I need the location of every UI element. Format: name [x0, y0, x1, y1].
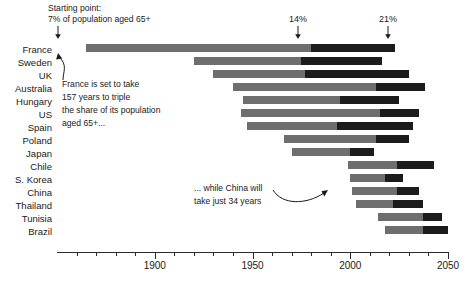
- category-label-japan: Japan: [0, 148, 52, 159]
- bar-segment-7-to-14: [378, 213, 423, 221]
- tick-1930: [213, 252, 214, 256]
- bar-segment-7-to-14: [385, 226, 422, 234]
- bar-segment-14-to-21: [380, 109, 419, 117]
- annotation-france-line3: the share of its population: [62, 105, 160, 117]
- bar-segment-7-to-14: [350, 174, 385, 182]
- year-label-2050: 2050: [437, 260, 459, 271]
- bar-segment-7-to-14: [348, 161, 397, 169]
- tick-1910: [174, 252, 175, 256]
- bar-segment-7-to-14: [352, 187, 397, 195]
- bar-segment-7-to-14: [292, 148, 351, 156]
- bar-segment-14-to-21: [376, 83, 425, 91]
- bar-s-korea: [350, 174, 403, 182]
- tick-1890: [135, 252, 136, 256]
- bar-segment-7-to-14: [213, 70, 305, 78]
- bar-segment-7-to-14: [194, 57, 302, 65]
- tick-1920: [194, 252, 195, 256]
- bar-france: [86, 44, 395, 52]
- bar-sweden: [194, 57, 382, 65]
- bar-segment-14-to-21: [423, 226, 448, 234]
- annotation-france-line2: 157 years to triple: [62, 92, 130, 104]
- category-label-spain: Spain: [0, 122, 52, 133]
- bar-hungary: [243, 96, 399, 104]
- category-label-skorea: S. Korea: [0, 174, 52, 185]
- tick-1970: [292, 252, 293, 256]
- bar-segment-14-to-21: [385, 174, 403, 182]
- annotation-france-line4: aged 65+...: [62, 118, 105, 130]
- down-arrow-icon-21pct: [383, 26, 393, 39]
- bar-chile: [348, 161, 434, 169]
- bar-segment-14-to-21: [397, 187, 419, 195]
- bar-segment-7-to-14: [241, 109, 380, 117]
- bar-brazil: [385, 226, 448, 234]
- bar-china: [352, 187, 418, 195]
- category-label-brazil: Brazil: [0, 226, 52, 237]
- tick-1990: [331, 252, 332, 256]
- tick-1880: [116, 252, 117, 256]
- category-label-australia: Australia: [0, 83, 52, 94]
- bar-segment-14-to-21: [305, 70, 409, 78]
- bar-segment-7-to-14: [284, 135, 376, 143]
- bar-us: [241, 109, 419, 117]
- bar-segment-14-to-21: [397, 161, 434, 169]
- bar-segment-14-to-21: [423, 213, 443, 221]
- tick-1870: [96, 252, 97, 256]
- annotation-china-line2: take just 34 years: [194, 196, 261, 208]
- bar-segment-7-to-14: [233, 83, 376, 91]
- category-label-sweden: Sweden: [0, 57, 52, 68]
- tick-2020: [389, 252, 390, 256]
- tick-2040: [428, 252, 429, 256]
- annotation-china-line1: ... while China will: [194, 183, 262, 195]
- marker-label-21pct: 21%: [379, 14, 397, 24]
- category-label-poland: Poland: [0, 135, 52, 146]
- tick-2000: [350, 252, 351, 259]
- down-arrow-icon-start: [53, 26, 63, 39]
- tick-1900: [155, 252, 156, 259]
- bar-segment-14-to-21: [393, 200, 422, 208]
- bar-thailand: [356, 200, 422, 208]
- category-label-china: China: [0, 187, 52, 198]
- bar-segment-14-to-21: [337, 122, 413, 130]
- bar-segment-14-to-21: [301, 57, 381, 65]
- year-label-1900: 1900: [144, 260, 166, 271]
- bar-segment-14-to-21: [311, 44, 395, 52]
- tick-2010: [370, 252, 371, 256]
- tick-2050: [448, 252, 449, 259]
- category-label-tunisia: Tunisia: [0, 213, 52, 224]
- bar-segment-7-to-14: [86, 44, 311, 52]
- tick-2030: [409, 252, 410, 256]
- annotation-starting-point-line1: Starting point:: [48, 3, 101, 15]
- tick-1950: [253, 252, 254, 259]
- tick-1940: [233, 252, 234, 256]
- year-label-2000: 2000: [339, 260, 361, 271]
- bar-spain: [247, 122, 413, 130]
- annotation-starting-point-line2: 7% of population aged 65+: [48, 14, 151, 26]
- chart-root: Starting point: 7% of population aged 65…: [0, 0, 467, 281]
- marker-label-14pct: 14%: [289, 14, 307, 24]
- tick-1860: [77, 252, 78, 256]
- year-label-1950: 1950: [241, 260, 263, 271]
- tick-1960: [272, 252, 273, 256]
- category-label-hungary: Hungary: [0, 96, 52, 107]
- bar-australia: [233, 83, 425, 91]
- tick-1980: [311, 252, 312, 256]
- category-label-uk: UK: [0, 70, 52, 81]
- china-callout-arrow-icon: [272, 185, 332, 207]
- bar-tunisia: [378, 213, 443, 221]
- category-label-thailand: Thailand: [0, 200, 52, 211]
- bar-japan: [292, 148, 374, 156]
- bar-segment-7-to-14: [247, 122, 337, 130]
- bar-poland: [284, 135, 409, 143]
- category-label-us: US: [0, 109, 52, 120]
- down-arrow-icon-14pct: [293, 26, 303, 39]
- bar-segment-14-to-21: [376, 135, 409, 143]
- bar-segment-14-to-21: [350, 148, 373, 156]
- bar-segment-7-to-14: [243, 96, 341, 104]
- bar-uk: [213, 70, 409, 78]
- france-callout-arrow-icon: [54, 50, 88, 82]
- category-label-france: France: [0, 44, 52, 55]
- category-label-chile: Chile: [0, 161, 52, 172]
- bar-segment-7-to-14: [356, 200, 393, 208]
- bar-segment-14-to-21: [340, 96, 399, 104]
